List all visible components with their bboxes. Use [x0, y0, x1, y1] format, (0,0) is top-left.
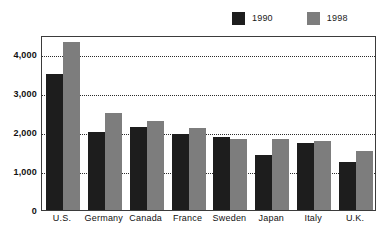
bar-1990-germany	[88, 132, 105, 210]
bar-chart: 1990 1998 01,0002,0003,0004,000 U.S.Germ…	[0, 0, 384, 243]
y-axis-tick-label: 1,000	[13, 167, 37, 177]
legend-label-1998: 1998	[327, 13, 348, 23]
bar-1998-canada	[147, 121, 164, 210]
bar-1998-uk	[356, 151, 373, 210]
y-axis-tick-label: 0	[32, 206, 37, 216]
x-axis-tick-label: France	[173, 213, 202, 223]
bar-1998-germany	[105, 113, 122, 210]
y-axis-tick-label: 2,000	[13, 128, 37, 138]
bar-group	[213, 37, 247, 210]
chart-legend: 1990 1998	[232, 10, 348, 26]
bar-1990-france	[172, 134, 189, 210]
bar-1998-italy	[314, 141, 331, 210]
bar-1990-italy	[297, 143, 314, 210]
x-axis-tick-label: Canada	[129, 213, 162, 223]
bar-group	[172, 37, 206, 210]
bars-layer	[42, 37, 375, 210]
x-axis-labels: U.S.GermanyCanadaFranceSwedenJapanItalyU…	[41, 213, 376, 233]
legend-swatch-1990	[232, 12, 245, 25]
bar-1990-us	[46, 74, 63, 210]
x-axis-tick-label: Japan	[259, 213, 285, 223]
bar-1998-sweden	[230, 139, 247, 210]
plot-area	[41, 36, 376, 211]
bar-group	[339, 37, 373, 210]
legend-item-1990: 1990	[232, 12, 273, 25]
bar-group	[255, 37, 289, 210]
bar-1990-japan	[255, 155, 272, 210]
bar-group	[46, 37, 80, 210]
x-axis-tick-label: Sweden	[213, 213, 247, 223]
bar-1998-us	[63, 42, 80, 210]
bar-1990-canada	[130, 127, 147, 210]
y-axis-tick-label: 4,000	[13, 50, 37, 60]
x-axis-tick-label: Italy	[304, 213, 322, 223]
bar-1990-uk	[339, 162, 356, 210]
x-axis-tick-label: Germany	[85, 213, 123, 223]
x-axis-tick-label: U.K.	[346, 213, 364, 223]
bar-1998-japan	[272, 139, 289, 210]
legend-label-1990: 1990	[252, 13, 273, 23]
x-axis-tick-label: U.S.	[53, 213, 71, 223]
legend-item-1998: 1998	[307, 12, 348, 25]
y-axis-labels: 01,0002,0003,0004,000	[0, 36, 37, 211]
y-axis-tick-label: 3,000	[13, 89, 37, 99]
bar-group	[88, 37, 122, 210]
bar-group	[130, 37, 164, 210]
bar-1998-france	[189, 128, 206, 210]
legend-swatch-1998	[307, 12, 320, 25]
bar-1990-sweden	[213, 137, 230, 210]
bar-group	[297, 37, 331, 210]
